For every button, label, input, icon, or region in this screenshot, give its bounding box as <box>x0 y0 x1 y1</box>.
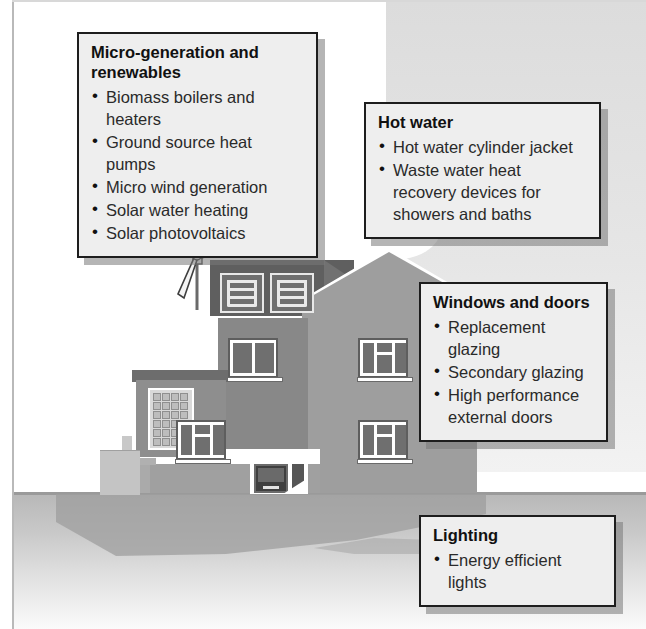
list-item: Ground source heat pumps <box>91 131 304 175</box>
list-item: Energy efficient lights <box>433 549 602 593</box>
callout-windows-and-doors[interactable]: Windows and doors Replacement glazing Se… <box>419 282 608 442</box>
callout-hot-water[interactable]: Hot water Hot water cylinder jacket Wast… <box>364 102 601 239</box>
list-item: Solar water heating <box>91 199 304 221</box>
string-course-trim-upper <box>218 449 320 457</box>
window-right-upper <box>358 338 408 378</box>
callout-title: Hot water <box>378 113 587 133</box>
callout-title: Micro-generation and renewables <box>91 43 304 83</box>
front-door-glass <box>258 468 284 482</box>
list-item: Replacement glazing <box>433 316 594 360</box>
utility-box-post <box>140 465 150 493</box>
callout-list: Hot water cylinder jacket Waste water he… <box>378 136 587 225</box>
window-right-lower <box>358 420 408 460</box>
list-item: Micro wind generation <box>91 176 304 198</box>
list-item: Waste water heat recovery devices for sh… <box>378 159 587 225</box>
utility-box <box>100 450 140 495</box>
list-item: Solar photovoltaics <box>91 222 304 244</box>
list-item: Biomass boilers and heaters <box>91 86 304 130</box>
window-front-upper <box>228 338 278 378</box>
list-item: Secondary glazing <box>433 361 594 383</box>
callout-list: Replacement glazing Secondary glazing Hi… <box>433 316 594 429</box>
callout-micro-generation[interactable]: Micro-generation and renewables Biomass … <box>77 32 318 258</box>
front-door-letterbox <box>263 486 279 489</box>
callout-list: Biomass boilers and heaters Ground sourc… <box>91 86 304 245</box>
callout-lighting[interactable]: Lighting Energy efficient lights <box>419 515 616 607</box>
callout-list: Energy efficient lights <box>433 549 602 593</box>
diagram-canvas: Micro-generation and renewables Biomass … <box>0 0 646 629</box>
list-item: Hot water cylinder jacket <box>378 136 587 158</box>
solar-thermal-collector-right <box>270 273 314 313</box>
window-left-lower <box>176 420 226 460</box>
list-item: High performance external doors <box>433 384 594 428</box>
solar-thermal-collector-left <box>220 273 264 313</box>
utility-box-ledge <box>140 458 156 465</box>
callout-title: Lighting <box>433 526 602 546</box>
callout-title: Windows and doors <box>433 293 594 313</box>
